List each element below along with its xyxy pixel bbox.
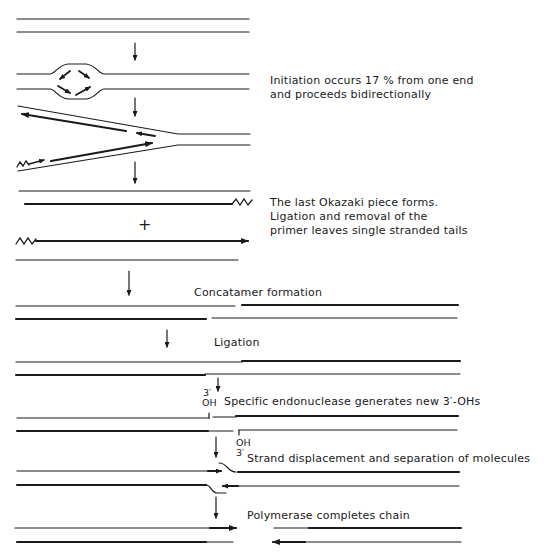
ligation-label: Ligation — [214, 336, 260, 350]
plus-sign: + — [138, 217, 151, 233]
endonuclease-label: Specific endonuclease generates new 3′-O… — [224, 395, 480, 409]
okazaki-label-line-3: primer leaves single stranded tails — [270, 224, 468, 238]
daughter-molecule-1 — [19, 191, 252, 205]
concatamer — [16, 305, 458, 319]
okazaki-label-line-1: The last Okazaki piece forms. — [270, 196, 438, 210]
completed-molecule-right — [273, 528, 461, 542]
polymerase-label: Polymerase completes chain — [247, 509, 410, 523]
replication-bubble — [17, 64, 249, 99]
bottom-3prime-label: 3′ — [236, 448, 244, 458]
initiation-label-line-1: Initiation occurs 17 % from one end — [270, 74, 474, 88]
concatamer-label: Concatamer formation — [194, 286, 322, 300]
strand-displacement — [17, 463, 459, 493]
ligated-concatamer — [16, 361, 460, 375]
top-oh-label: OH — [202, 398, 217, 408]
nicked-concatamer — [17, 413, 458, 435]
okazaki-label-line-2: Ligation and removal of the — [270, 210, 428, 224]
parental-duplex — [17, 19, 249, 32]
completed-molecule-left — [15, 528, 236, 542]
daughter-molecule-2 — [16, 238, 248, 260]
initiation-label-line-2: and proceeds bidirectionally — [270, 88, 431, 102]
displacement-label: Strand displacement and separation of mo… — [247, 452, 530, 466]
replication-fork — [17, 106, 250, 171]
